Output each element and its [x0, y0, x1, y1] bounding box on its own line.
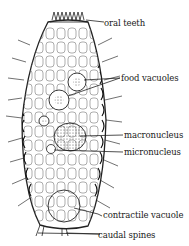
- label-micronucleus: micronucleus: [124, 148, 181, 157]
- macronucleus-illustration: [54, 123, 86, 151]
- label-macronucleus: macronucleus: [124, 131, 183, 140]
- caudal-spines-illustration: [36, 225, 68, 236]
- label-contractile-vacuole: contractile vacuole: [103, 211, 183, 220]
- micronucleus-illustration: [47, 145, 56, 154]
- label-caudal-spines: caudal spines: [98, 231, 155, 240]
- coleps-diagram: oral teeth food vacuoles macronucleus mi…: [0, 0, 189, 246]
- label-food-vacuoles: food vacuoles: [121, 74, 179, 83]
- armor-plates: [24, 28, 98, 221]
- edge-plates: [22, 40, 104, 196]
- label-oral-teeth: oral teeth: [104, 19, 145, 28]
